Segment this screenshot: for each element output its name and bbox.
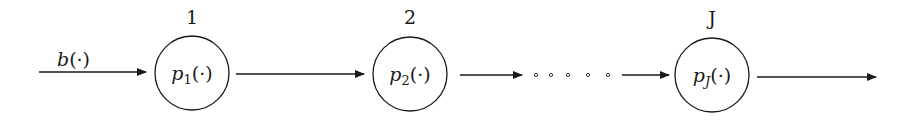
ellipsis-dots <box>534 73 609 76</box>
node-1-index: 1 <box>186 6 198 28</box>
node-1: 1 p1(·) <box>155 6 229 110</box>
node-J: J pJ(·) <box>675 7 749 112</box>
chain-diagram: b(·) 1 p1(·) 2 p2(·) J pJ(·) <box>0 0 918 120</box>
input-label: b(·) <box>57 48 90 70</box>
node-2-index: 2 <box>404 6 416 28</box>
node-J-index: J <box>706 7 716 29</box>
node-2-function: p2(·) <box>389 63 430 88</box>
node-J-function: pJ(·) <box>693 64 731 89</box>
node-1-function: p1(·) <box>171 62 212 87</box>
node-2: 2 p2(·) <box>373 6 447 111</box>
